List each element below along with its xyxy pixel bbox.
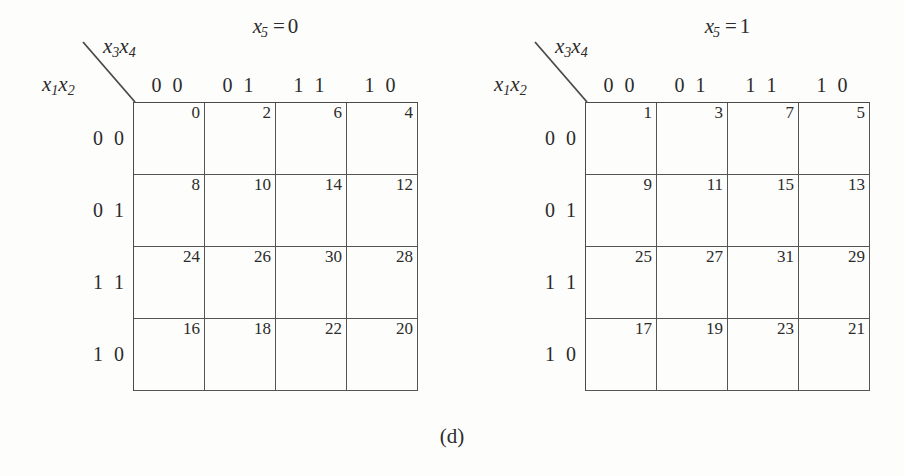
minterm-index: 5: [857, 103, 866, 123]
kmap-grid-row: 17 19 23 21: [586, 319, 870, 391]
kmap-cell[interactable]: 17: [586, 319, 657, 391]
kmap-grid-row: 1 3 7 5: [586, 103, 870, 175]
kmap-cell[interactable]: 26: [205, 247, 276, 319]
kmap-cell[interactable]: 12: [347, 175, 418, 247]
column-header: 0 0: [585, 74, 656, 97]
column-header: 1 1: [727, 74, 798, 97]
kmap-cell[interactable]: 29: [799, 247, 870, 319]
kmap-cell[interactable]: 1: [586, 103, 657, 175]
kmap-cell[interactable]: 19: [657, 319, 728, 391]
kmap-cell[interactable]: 9: [586, 175, 657, 247]
kmap-cell[interactable]: 2: [205, 103, 276, 175]
minterm-index: 23: [777, 319, 794, 339]
minterm-index: 18: [254, 319, 271, 339]
row-header: 0 1: [526, 174, 581, 246]
row-header: 0 0: [526, 102, 581, 174]
kmap-grid: 1 3 7 5 9 11 15 13 25 27 31 29 17 19 23: [585, 102, 870, 391]
minterm-index: 24: [183, 247, 200, 267]
kmap-cell[interactable]: 22: [276, 319, 347, 391]
minterm-index: 7: [786, 103, 795, 123]
minterm-index: 8: [192, 175, 201, 195]
minterm-index: 1: [644, 103, 653, 123]
kmap-cell[interactable]: 21: [799, 319, 870, 391]
minterm-index: 16: [183, 319, 200, 339]
kmap-cell[interactable]: 18: [205, 319, 276, 391]
kmap-cell[interactable]: 16: [134, 319, 205, 391]
kmap-cell[interactable]: 6: [276, 103, 347, 175]
corner-diagonal-icon: [532, 38, 592, 108]
kmap-cell[interactable]: 20: [347, 319, 418, 391]
kmap-cell[interactable]: 4: [347, 103, 418, 175]
kmap-grid-row: 8 10 14 12: [134, 175, 418, 247]
row-axis-label: x1x2: [42, 72, 75, 99]
kmap-cell[interactable]: 5: [799, 103, 870, 175]
kmap-title-value: 1: [740, 14, 751, 38]
column-header: 1 0: [798, 74, 869, 97]
kmap-cell[interactable]: 13: [799, 175, 870, 247]
karnaugh-map-x5-1: x5=1 x3x4 x1x2 0 0 0 1 1 1 1 0 0 0 0 1 1…: [452, 0, 904, 410]
kmap-grid-row: 24 26 30 28: [134, 247, 418, 319]
kmap-title-value: 0: [288, 14, 299, 38]
figure-canvas: x5=0 x3x4 x1x2 0 0 0 1 1 1 1 0 0 0 0 1 1…: [0, 0, 904, 476]
row-header: 1 0: [74, 318, 129, 390]
minterm-index: 26: [254, 247, 271, 267]
kmap-cell[interactable]: 25: [586, 247, 657, 319]
kmap-cell[interactable]: 10: [205, 175, 276, 247]
kmap-cell[interactable]: 24: [134, 247, 205, 319]
row-axis-label: x1x2: [494, 72, 527, 99]
row-axis-var2: x: [510, 72, 519, 96]
row-header: 1 1: [526, 246, 581, 318]
kmap-cell[interactable]: 15: [728, 175, 799, 247]
kmap-grid-row: 16 18 22 20: [134, 319, 418, 391]
corner-diagonal-icon: [80, 38, 140, 108]
kmap-cell[interactable]: 3: [657, 103, 728, 175]
column-header: 1 1: [275, 74, 346, 97]
kmap-cell[interactable]: 0: [134, 103, 205, 175]
row-header: 0 1: [74, 174, 129, 246]
minterm-index: 10: [254, 175, 271, 195]
minterm-index: 21: [848, 319, 865, 339]
kmap-cell[interactable]: 14: [276, 175, 347, 247]
row-header: 1 0: [526, 318, 581, 390]
minterm-index: 22: [325, 319, 342, 339]
kmap-title-equals: =: [725, 14, 737, 38]
kmap-cell[interactable]: 27: [657, 247, 728, 319]
row-headers: 0 0 0 1 1 1 1 0: [526, 102, 581, 390]
kmap-cell[interactable]: 23: [728, 319, 799, 391]
minterm-index: 28: [396, 247, 413, 267]
minterm-index: 11: [707, 175, 723, 195]
row-header: 1 1: [74, 246, 129, 318]
column-header: 1 0: [346, 74, 417, 97]
kmap-cell[interactable]: 31: [728, 247, 799, 319]
minterm-index: 9: [644, 175, 653, 195]
kmap-cell[interactable]: 7: [728, 103, 799, 175]
kmap-cell[interactable]: 11: [657, 175, 728, 247]
row-headers: 0 0 0 1 1 1 1 0: [74, 102, 129, 390]
minterm-index: 0: [192, 103, 201, 123]
kmap-grid-row: 9 11 15 13: [586, 175, 870, 247]
kmap-title-subscript: 5: [261, 25, 268, 40]
minterm-index: 20: [396, 319, 413, 339]
kmap-cell[interactable]: 30: [276, 247, 347, 319]
kmap-title-equals: =: [273, 14, 285, 38]
minterm-index: 13: [848, 175, 865, 195]
kmap-title: x5=1: [585, 14, 870, 41]
minterm-index: 2: [263, 103, 272, 123]
minterm-index: 19: [706, 319, 723, 339]
kmap-grid: 0 2 6 4 8 10 14 12 24 26 30 28 16 18 22: [133, 102, 418, 391]
row-axis-var1: x: [494, 72, 503, 96]
minterm-index: 27: [706, 247, 723, 267]
kmap-title-subscript: 5: [713, 25, 720, 40]
kmap-grid-row: 0 2 6 4: [134, 103, 418, 175]
minterm-index: 25: [635, 247, 652, 267]
kmap-cell[interactable]: 28: [347, 247, 418, 319]
minterm-index: 3: [715, 103, 724, 123]
column-headers: 0 0 0 1 1 1 1 0: [133, 74, 417, 97]
row-axis-var2: x: [58, 72, 67, 96]
minterm-index: 14: [325, 175, 342, 195]
minterm-index: 29: [848, 247, 865, 267]
column-header: 0 1: [204, 74, 275, 97]
kmap-title: x5=0: [133, 14, 418, 41]
kmap-cell[interactable]: 8: [134, 175, 205, 247]
minterm-index: 6: [334, 103, 343, 123]
